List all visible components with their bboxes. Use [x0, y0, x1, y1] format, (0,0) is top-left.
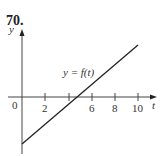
function-line — [22, 45, 138, 144]
origin-label: 0 — [12, 99, 18, 111]
tick-label-8: 8 — [112, 102, 118, 114]
tick-label-2: 2 — [42, 102, 48, 114]
tick-label-6: 6 — [89, 102, 95, 114]
chart: y t 0 2 6 8 10 y = f(t) — [0, 0, 164, 156]
y-axis-label: y — [8, 23, 14, 35]
curve-label: y = f(t) — [62, 66, 95, 79]
tick-label-10: 10 — [132, 102, 144, 114]
x-axis-label: t — [152, 99, 156, 111]
y-axis-arrow-icon — [20, 29, 25, 36]
